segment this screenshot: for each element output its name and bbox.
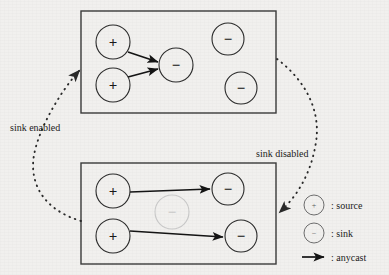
node-glyph-minus: − [224, 31, 233, 47]
legend-anycast-label: : anycast [331, 252, 366, 263]
node-glyph-minus: − [237, 228, 246, 244]
sink-disabled-panel: − + + − − [81, 163, 276, 264]
node-glyph-plus: + [109, 34, 118, 50]
node-source[interactable]: + [96, 219, 130, 253]
legend-source-label: : source [331, 200, 363, 211]
node-sink[interactable]: − [212, 23, 244, 55]
node-sink[interactable]: − [225, 220, 257, 252]
sink-disabled-transition: sink disabled [256, 59, 317, 212]
node-sink[interactable]: − [225, 72, 257, 104]
node-sink[interactable]: − [159, 48, 193, 82]
node-source[interactable]: + [96, 25, 130, 59]
node-glyph-minus: − [224, 181, 233, 197]
node-glyph-plus: + [109, 183, 118, 199]
node-source[interactable]: + [96, 174, 130, 208]
node-source[interactable]: + [96, 68, 130, 102]
node-sink-disabled[interactable]: − [155, 195, 189, 229]
panel-border [81, 163, 276, 264]
legend-sink-glyph: − [312, 229, 317, 238]
legend-item-source: + : source [304, 195, 363, 215]
sink-disabled-label: sink disabled [256, 148, 309, 159]
node-glyph-plus: + [109, 228, 118, 244]
node-glyph-minus: − [172, 57, 181, 73]
legend-source-glyph: + [312, 201, 317, 210]
dotted-curve-right [277, 59, 317, 212]
legend-item-anycast: : anycast [302, 252, 366, 263]
node-sink[interactable]: − [212, 173, 244, 205]
diagram-figure: + + − − − [0, 0, 389, 275]
node-glyph-minus: − [237, 80, 246, 96]
anycast-edge [130, 231, 223, 237]
dotted-curve-left [33, 71, 81, 221]
legend-sink-label: : sink [331, 228, 353, 239]
diagram-canvas: + + − − − [0, 0, 389, 275]
sink-enabled-panel: + + − − − [81, 11, 276, 113]
anycast-edge [128, 52, 158, 62]
anycast-edge [128, 69, 158, 77]
sink-enabled-label: sink enabled [10, 122, 60, 133]
node-glyph-minus: − [168, 204, 177, 220]
node-glyph-plus: + [109, 77, 118, 93]
legend-item-sink: − : sink [304, 223, 353, 243]
legend: + : source − : sink : anycast [302, 195, 366, 263]
sink-enabled-transition: sink enabled [10, 71, 81, 221]
anycast-edge [130, 189, 210, 192]
